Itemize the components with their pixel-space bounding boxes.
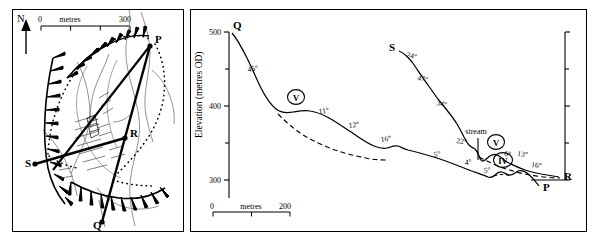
angle-qp-6: 5° — [483, 165, 491, 175]
transect-line-sr[interactable] — [35, 138, 125, 164]
y-tick-500: 500 — [209, 28, 221, 37]
unit-marker-v-qp-label: V — [293, 93, 300, 103]
profile-label-q: Q — [233, 19, 242, 31]
map-scalebar — [41, 26, 130, 31]
y-axis-left — [224, 32, 229, 198]
angle-sr-0: 24° — [406, 50, 418, 61]
hachure-escarpment-lower — [68, 182, 169, 211]
transect-line-pq[interactable] — [102, 46, 150, 222]
profile-label-s: S — [389, 41, 395, 53]
angle-sr-4: 6° — [504, 149, 512, 159]
stream-label: stream — [465, 127, 487, 136]
angle-sr-1: 47° — [417, 73, 429, 84]
angle-qp-0: 45° — [247, 63, 259, 74]
angle-sr-5: 13° — [517, 149, 529, 159]
angle-qp-3: 16° — [380, 134, 392, 144]
north-arrow-icon — [21, 19, 31, 54]
map-scalebar-min: 0 — [38, 15, 42, 24]
y-tick-400: 400 — [209, 102, 221, 111]
unit-marker-v-sr: V — [488, 135, 505, 150]
profile-scalebar-min: 0 — [210, 202, 214, 211]
map-label-r: R — [130, 127, 139, 139]
map-point-s-dot[interactable] — [32, 161, 37, 166]
north-label: N — [17, 13, 25, 24]
angle-qp-5: 4° — [464, 157, 472, 167]
angle-qp-1: 11° — [318, 106, 330, 116]
angle-sr-6: 16° — [531, 160, 543, 170]
profile-curve-sr — [399, 51, 559, 177]
profile-panel: Elevation (metres OD) 500 400 300 — [190, 9, 587, 232]
angle-sr-2: 34° — [436, 98, 448, 109]
profile-svg: Elevation (metres OD) 500 400 300 — [191, 10, 584, 229]
location-map-panel: N 0 metres 300 — [12, 9, 184, 232]
profile-label-p: P — [543, 181, 550, 193]
angle-sr-3: 22° — [456, 136, 468, 146]
map-svg: N 0 metres 300 — [13, 10, 181, 229]
map-point-r-dot[interactable] — [122, 135, 127, 140]
figure-root: N 0 metres 300 — [0, 0, 599, 241]
slope-ticks — [59, 92, 125, 178]
map-label-s: S — [25, 157, 31, 169]
transect-line-secondary — [53, 47, 149, 170]
unit-marker-v-sr-label: V — [493, 138, 500, 148]
unit-marker-v-qp: V — [288, 90, 305, 105]
map-point-p-dot[interactable] — [147, 43, 152, 48]
profile-label-r: R — [564, 170, 573, 182]
y-axis-right — [531, 32, 570, 180]
profile-scalebar — [213, 212, 290, 217]
angle-qp-4: 5° — [433, 149, 441, 159]
map-label-q: Q — [93, 219, 102, 231]
profile-curve-qp — [232, 33, 539, 186]
map-label-p: P — [155, 33, 162, 45]
hachure-escarpment-upper — [67, 26, 149, 78]
profile-scalebar-word: metres — [240, 202, 261, 211]
y-axis-title: Elevation (metres OD) — [194, 51, 205, 138]
angle-qp-2: 12° — [348, 120, 360, 130]
profile-scalebar-max: 200 — [279, 202, 291, 211]
y-tick-300: 300 — [209, 176, 221, 185]
map-scalebar-word: metres — [59, 15, 80, 24]
